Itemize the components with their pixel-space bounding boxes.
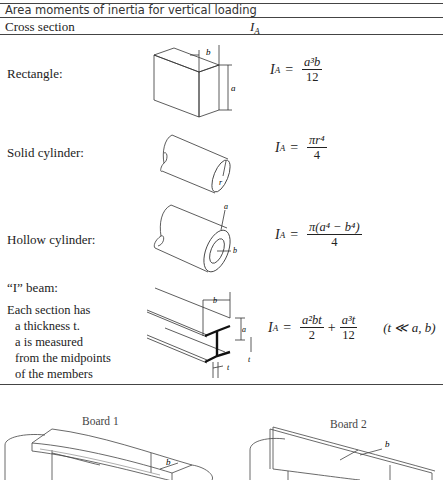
dim-t-label: t xyxy=(248,355,251,364)
dim-b-label: b xyxy=(213,296,217,305)
board-1-dim-b: b xyxy=(166,457,171,467)
rectangle-diagram: b a xyxy=(150,45,240,115)
dim-b-label: b xyxy=(206,47,211,57)
header-cross-section: Cross section xyxy=(5,19,75,35)
dim-t-label-bottom: t xyxy=(227,363,230,372)
i-beam-note: Each section has a thickness t. a is mea… xyxy=(7,302,111,382)
bottom-rule xyxy=(0,384,443,385)
formula-i-beam: IA = a²bt2 + a³t12 (t ≪ a, b) xyxy=(268,313,435,342)
dim-a-label: a xyxy=(242,325,246,334)
board-2-dim-b: b xyxy=(385,439,390,449)
row-label-rectangle: Rectangle: xyxy=(7,66,63,82)
row-label-hollow-cylinder: Hollow cylinder: xyxy=(7,232,95,248)
row-label-solid-cylinder: Solid cylinder: xyxy=(7,145,84,161)
formula-hollow-cylinder: IA = π(a⁴ − b⁴)4 xyxy=(275,220,366,249)
hollow-cylinder-diagram: a b xyxy=(153,200,243,275)
dim-b-label: b xyxy=(233,246,237,255)
board-2-illustration: b xyxy=(230,425,443,480)
solid-cylinder-diagram: r xyxy=(160,133,235,188)
table-title: Area moments of inertia for vertical loa… xyxy=(5,3,257,17)
formula-solid-cylinder: IA = πr⁴4 xyxy=(275,133,331,162)
formula-rectangle: IA = a³b12 xyxy=(270,55,326,84)
title-rule xyxy=(0,17,443,18)
dim-a-label: a xyxy=(231,83,236,93)
header-ia: IA xyxy=(250,19,260,36)
row-label-i-beam: “I” beam: xyxy=(7,280,58,296)
i-beam-diagram: b a t t xyxy=(135,280,255,380)
dim-r-label: r xyxy=(219,178,223,187)
dim-a-label: a xyxy=(224,202,228,211)
board-1-illustration: b xyxy=(0,425,220,480)
